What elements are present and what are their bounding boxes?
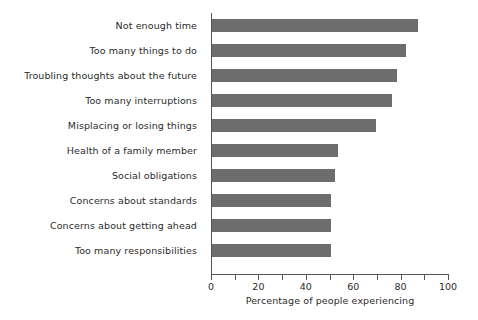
x-axis-tick: [211, 275, 212, 280]
x-axis-tick-labels: 020406080100: [211, 281, 449, 295]
x-axis-tick: [353, 275, 354, 280]
x-axis-tick: [448, 275, 449, 280]
category-axis-labels: Not enough timeToo many things to doTrou…: [0, 13, 204, 263]
bar: [212, 244, 331, 257]
x-axis-tick: [424, 275, 425, 280]
bar: [212, 119, 376, 132]
bar: [212, 94, 392, 107]
category-label: Troubling thoughts about the future: [24, 63, 197, 88]
x-axis-tick: [401, 275, 402, 280]
x-axis-tick: [235, 275, 236, 280]
x-axis-tick: [306, 275, 307, 280]
plot-area: 020406080100: [211, 13, 448, 275]
category-label: Too many things to do: [90, 38, 197, 63]
x-axis-tick: [258, 275, 259, 280]
bar: [212, 144, 338, 157]
x-axis-tick-label: 20: [252, 281, 264, 292]
bar: [212, 169, 335, 182]
bar: [212, 44, 406, 57]
category-label: Health of a family member: [67, 138, 197, 163]
bar: [212, 69, 397, 82]
category-label: Concerns about getting ahead: [50, 213, 197, 238]
bar: [212, 219, 331, 232]
x-axis-tick: [282, 275, 283, 280]
x-axis-title: Percentage of people experiencing: [211, 295, 449, 306]
category-label: Misplacing or losing things: [68, 113, 197, 138]
category-label: Social obligations: [112, 163, 197, 188]
x-axis-tick: [330, 275, 331, 280]
category-label: Too many responsibilities: [75, 238, 197, 263]
bar: [212, 194, 331, 207]
x-axis-tick-label: 0: [208, 281, 214, 292]
x-axis-tick-label: 100: [439, 281, 457, 292]
category-label: Not enough time: [116, 13, 197, 38]
x-axis-tick-label: 40: [300, 281, 312, 292]
x-axis-tick-label: 60: [347, 281, 359, 292]
bar-chart: Not enough timeToo many things to doTrou…: [0, 0, 478, 320]
category-label: Concerns about standards: [70, 188, 197, 213]
bars-layer: [212, 13, 449, 263]
x-axis-tick: [377, 275, 378, 280]
category-label: Too many interruptions: [85, 88, 197, 113]
x-axis-tick-label: 80: [395, 281, 407, 292]
bar: [212, 19, 418, 32]
